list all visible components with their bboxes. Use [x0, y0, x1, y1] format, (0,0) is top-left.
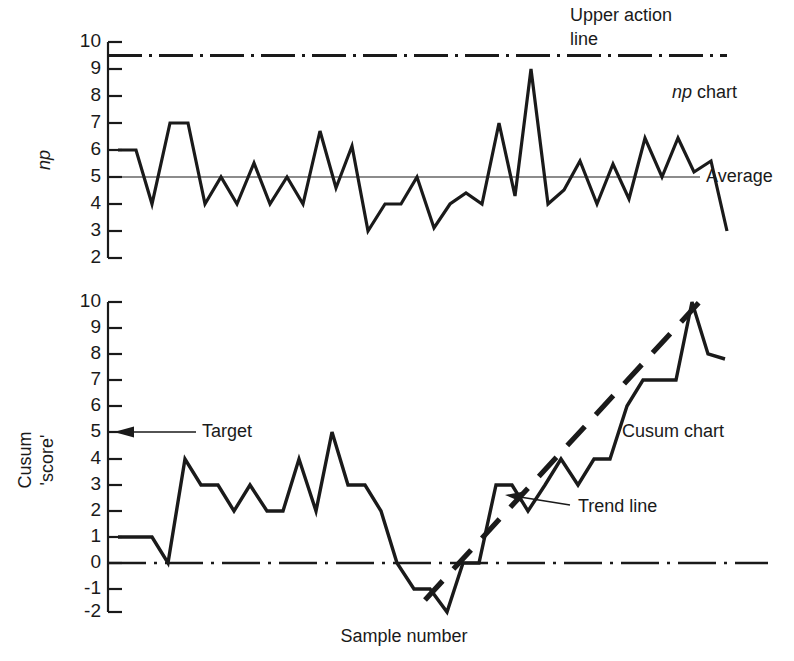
cusum-ytick-neg2: -2 — [84, 600, 101, 621]
upper-action-line-label-2: line — [570, 29, 598, 49]
cusum-ytick-2: 2 — [90, 499, 101, 520]
cusum-y-axis-ticks — [108, 302, 122, 612]
cusum-ytick-0: 0 — [90, 551, 101, 572]
target-arrowhead-icon — [114, 427, 134, 438]
cusum-ytick-10: 10 — [80, 290, 101, 311]
cusum-chart-group: 10 9 8 7 6 5 4 3 2 1 0 -1 -2 Cusum 'scor… — [15, 290, 768, 646]
trend-line-label: Trend line — [578, 496, 657, 516]
cusum-ytick-8: 8 — [90, 342, 101, 363]
np-chart-group: 10 9 8 7 6 5 4 3 2 np Upper action line … — [34, 5, 773, 267]
np-ytick-3: 3 — [90, 219, 101, 240]
target-annotation: Target — [114, 421, 252, 441]
cusum-ytick-7: 7 — [90, 368, 101, 389]
np-axis-title: np — [34, 150, 54, 170]
figure-root: 10 9 8 7 6 5 4 3 2 np Upper action line … — [0, 0, 794, 661]
cusum-ytick-4: 4 — [90, 447, 101, 468]
np-ytick-7: 7 — [90, 111, 101, 132]
np-ytick-5: 5 — [90, 165, 101, 186]
np-ytick-10: 10 — [80, 30, 101, 51]
np-ytick-9: 9 — [90, 57, 101, 78]
np-chart-label-suffix: chart — [692, 82, 737, 102]
sample-number-label: Sample number — [340, 626, 467, 646]
cusum-data-series — [118, 302, 725, 612]
cusum-trend-line — [425, 296, 705, 600]
cusum-ytick-3: 3 — [90, 473, 101, 494]
cusum-ytick-neg1: -1 — [84, 577, 101, 598]
np-ytick-6: 6 — [90, 138, 101, 159]
cusum-axis-title-line2: 'score' — [37, 435, 57, 486]
cusum-axis-title-line1: Cusum — [15, 431, 35, 488]
np-chart-label-italic: np — [672, 82, 692, 102]
cusum-ytick-1: 1 — [90, 525, 101, 546]
np-data-series — [118, 69, 727, 231]
trend-line-leader — [520, 497, 570, 505]
np-ytick-4: 4 — [90, 192, 101, 213]
np-chart-label: np chart — [672, 82, 737, 102]
np-ytick-8: 8 — [90, 84, 101, 105]
cusum-ytick-6: 6 — [90, 394, 101, 415]
cusum-chart-label: Cusum chart — [622, 421, 724, 441]
cusum-ytick-9: 9 — [90, 316, 101, 337]
chart-canvas: 10 9 8 7 6 5 4 3 2 np Upper action line … — [0, 0, 794, 661]
np-average-label: Average — [706, 166, 773, 186]
cusum-ytick-5: 5 — [90, 420, 101, 441]
target-label: Target — [202, 421, 252, 441]
upper-action-line-label-1: Upper action — [570, 5, 672, 25]
np-ytick-2: 2 — [90, 246, 101, 267]
